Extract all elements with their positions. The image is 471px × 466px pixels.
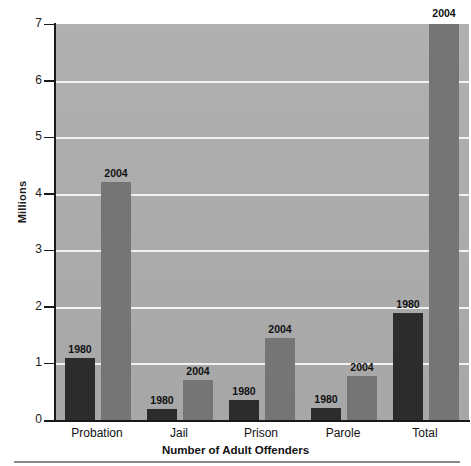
bar-group-total: 1980 2004 bbox=[387, 24, 463, 420]
bar-label-total-2004: 2004 bbox=[432, 7, 455, 19]
bar-group-probation: 1980 2004 bbox=[59, 24, 135, 420]
bar-label-prison-2004: 2004 bbox=[268, 323, 291, 335]
y-tick-mark-6 bbox=[44, 80, 55, 82]
bar-total-2004[interactable]: 2004 bbox=[429, 24, 459, 420]
x-tick-label-total: Total bbox=[387, 426, 463, 440]
bar-label-probation-1980: 1980 bbox=[68, 343, 91, 355]
bar-prison-1980[interactable]: 1980 bbox=[229, 400, 259, 420]
bar-label-total-1980: 1980 bbox=[396, 298, 419, 310]
y-tick-mark-3 bbox=[44, 250, 55, 252]
y-tick-label-7: 7 bbox=[20, 16, 42, 30]
bar-label-parole-1980: 1980 bbox=[314, 393, 337, 405]
bar-label-jail-1980: 1980 bbox=[150, 394, 173, 406]
y-tick-label-2: 2 bbox=[20, 299, 42, 313]
bar-label-jail-2004: 2004 bbox=[186, 365, 209, 377]
y-tick-mark-4 bbox=[44, 193, 55, 195]
y-tick-label-3: 3 bbox=[20, 242, 42, 256]
y-tick-label-5: 5 bbox=[20, 129, 42, 143]
bar-label-parole-2004: 2004 bbox=[350, 361, 373, 373]
bar-chart-figure: Millions 1980 2004 1980 2004 bbox=[0, 0, 471, 466]
x-axis-line bbox=[44, 420, 470, 422]
y-tick-mark-0 bbox=[44, 420, 55, 422]
bar-total-1980[interactable]: 1980 bbox=[393, 313, 423, 421]
y-tick-mark-1 bbox=[44, 363, 55, 365]
x-tick-label-probation: Probation bbox=[59, 426, 135, 440]
bottom-rule bbox=[14, 461, 460, 463]
y-tick-label-1: 1 bbox=[20, 355, 42, 369]
y-tick-mark-2 bbox=[44, 306, 55, 308]
bar-parole-2004[interactable]: 2004 bbox=[347, 376, 377, 420]
bar-group-jail: 1980 2004 bbox=[141, 24, 217, 420]
bar-jail-1980[interactable]: 1980 bbox=[147, 409, 177, 420]
y-tick-label-6: 6 bbox=[20, 73, 42, 87]
x-tick-label-parole: Parole bbox=[305, 426, 381, 440]
x-tick-label-prison: Prison bbox=[223, 426, 299, 440]
bar-parole-1980[interactable]: 1980 bbox=[311, 408, 341, 420]
bar-prison-2004[interactable]: 2004 bbox=[265, 338, 295, 420]
y-tick-label-0: 0 bbox=[20, 412, 42, 426]
bar-group-parole: 1980 2004 bbox=[305, 24, 381, 420]
y-tick-mark-5 bbox=[44, 137, 55, 139]
bar-label-prison-1980: 1980 bbox=[232, 385, 255, 397]
x-axis-title: Number of Adult Offenders bbox=[0, 444, 471, 456]
bar-group-prison: 1980 2004 bbox=[223, 24, 299, 420]
bar-probation-2004[interactable]: 2004 bbox=[101, 182, 131, 420]
bar-label-probation-2004: 2004 bbox=[104, 167, 127, 179]
y-tick-label-4: 4 bbox=[20, 186, 42, 200]
plot-area: 1980 2004 1980 2004 1980 2004 bbox=[55, 24, 469, 420]
y-axis-title: Millions bbox=[16, 162, 28, 242]
bar-jail-2004[interactable]: 2004 bbox=[183, 380, 213, 420]
y-axis-line bbox=[54, 23, 56, 421]
x-tick-label-jail: Jail bbox=[141, 426, 217, 440]
bar-probation-1980[interactable]: 1980 bbox=[65, 358, 95, 420]
y-tick-mark-7 bbox=[44, 24, 55, 26]
